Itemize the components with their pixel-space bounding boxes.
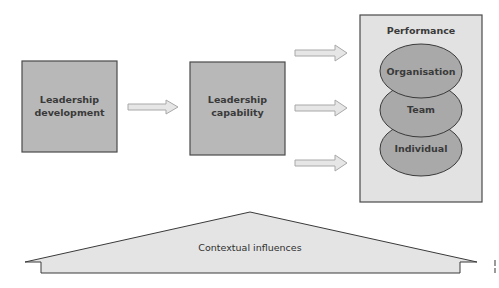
leadership-development-label-line2: development [34,107,105,118]
level-team-label: Team [407,104,435,115]
leadership-capability-label-line2: capability [211,107,264,118]
diagram-canvas: Leadership development Leadership capabi… [0,0,499,288]
arrow-right-icon [295,155,347,171]
arrow-right-icon [128,100,178,114]
level-individual-label: Individual [394,143,447,154]
level-organisation-label: Organisation [386,66,455,77]
leadership-capability-node: Leadership capability [190,62,285,155]
leadership-development-label-line1: Leadership [40,94,100,105]
leadership-capability-label-line1: Leadership [208,94,268,105]
contextual-influences-label: Contextual influences [198,242,301,253]
contextual-influences-base: Contextual influences [25,212,477,273]
arrow-right-icon [295,100,347,116]
edge-marks [494,260,496,273]
arrow-right-icon [295,45,347,61]
leadership-development-node: Leadership development [22,61,117,152]
performance-panel: Performance Organisation Team Individual [360,15,482,202]
performance-title: Performance [387,25,456,36]
